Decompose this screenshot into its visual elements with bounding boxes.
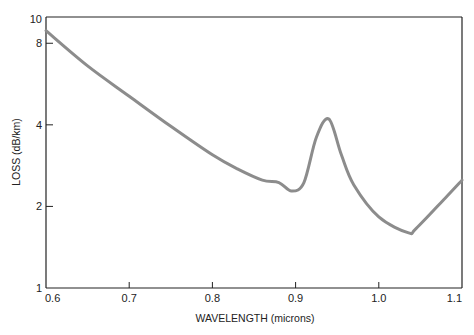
plot-frame [46, 17, 462, 288]
x-tick-label: 0.9 [288, 292, 303, 304]
y-tick-label: 4 [36, 119, 42, 131]
loss-chart: 0.60.70.80.91.01.1 124810 WAVELENGTH (mi… [0, 0, 474, 335]
x-tick-label: 0.6 [45, 292, 60, 304]
loss-curve [46, 31, 462, 234]
y-axis-label: LOSS (dB/km) [10, 118, 22, 186]
x-tick-label: 1.0 [371, 292, 386, 304]
y-axis-ticks: 124810 [30, 13, 53, 294]
x-axis-ticks: 0.60.70.80.91.01.1 [45, 282, 462, 304]
y-tick-label: 2 [36, 200, 42, 212]
x-tick-label: 0.7 [122, 292, 137, 304]
x-axis-label: WAVELENGTH (microns) [195, 312, 314, 324]
y-tick-label: 10 [30, 13, 42, 25]
y-tick-label: 1 [36, 282, 42, 294]
x-tick-label: 0.8 [205, 292, 220, 304]
x-tick-label: 1.1 [447, 292, 462, 304]
y-tick-label: 8 [36, 37, 42, 49]
